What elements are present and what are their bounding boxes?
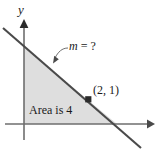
area-annotation-label: Area is 4: [29, 104, 72, 116]
point-coordinates-label: (2, 1): [93, 84, 119, 96]
figure-graphic: [0, 0, 158, 152]
slope-leader-line: [55, 48, 68, 58]
point-marker-square: [85, 96, 91, 102]
x-axis-arrowhead: [147, 120, 155, 129]
slope-question: = ?: [78, 39, 96, 53]
y-axis-label: y: [18, 3, 24, 16]
slope-area-triangle-figure: y m = ? (2, 1) Area is 4: [0, 0, 158, 152]
y-axis-arrowhead: [20, 19, 29, 28]
slope-symbol: m: [69, 39, 78, 53]
slope-annotation-label: m = ?: [69, 40, 96, 52]
